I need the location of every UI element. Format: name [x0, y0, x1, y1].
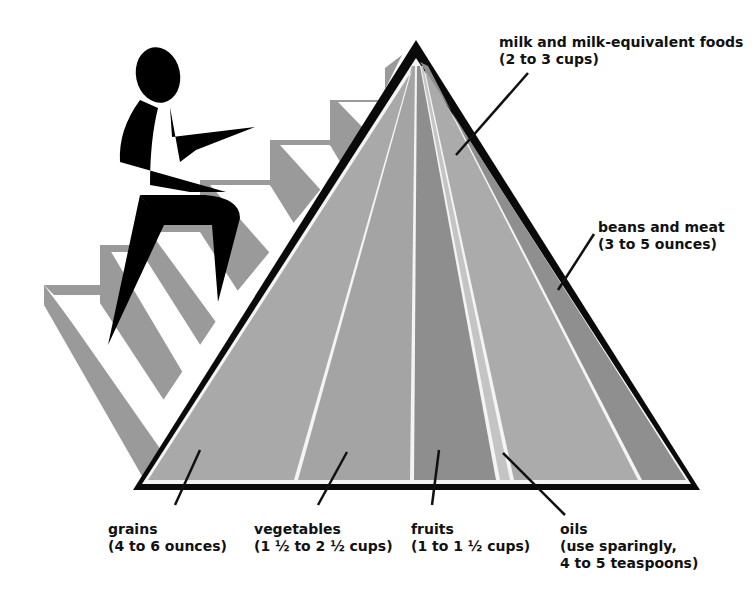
label-meat: beans and meat (3 to 5 ounces): [598, 219, 725, 253]
label-vegetables-name: vegetables: [254, 521, 393, 538]
label-grains-amount: (4 to 6 ounces): [108, 538, 227, 555]
label-oils: oils (use sparingly, 4 to 5 teaspoons): [560, 521, 698, 572]
label-meat-amount: (3 to 5 ounces): [598, 236, 725, 253]
label-milk-name: milk and milk-equivalent foods: [499, 34, 743, 51]
leader-milk: [456, 73, 528, 155]
label-fruits-amount: (1 to 1 ½ cups): [411, 538, 530, 555]
label-meat-name: beans and meat: [598, 219, 725, 236]
label-oils-amount: (use sparingly,: [560, 538, 698, 555]
label-fruits-name: fruits: [411, 521, 530, 538]
label-vegetables-amount: (1 ½ to 2 ½ cups): [254, 538, 393, 555]
label-grains: grains (4 to 6 ounces): [108, 521, 227, 555]
label-milk: milk and milk-equivalent foods (2 to 3 c…: [499, 34, 743, 68]
leader-meat: [558, 234, 594, 290]
figure-head: [131, 43, 186, 107]
label-oils-name: oils: [560, 521, 698, 538]
label-milk-amount: (2 to 3 cups): [499, 51, 743, 68]
label-grains-name: grains: [108, 521, 227, 538]
label-vegetables: vegetables (1 ½ to 2 ½ cups): [254, 521, 393, 555]
label-oils-amount-2: 4 to 5 teaspoons): [560, 555, 698, 572]
label-fruits: fruits (1 to 1 ½ cups): [411, 521, 530, 555]
pyramid-illustration: [0, 0, 755, 611]
